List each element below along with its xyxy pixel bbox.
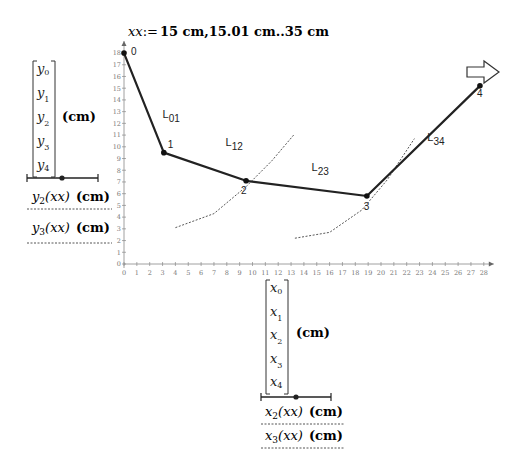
vector-entry-4: x4: [270, 374, 282, 390]
x-tick-label: 3: [160, 269, 164, 277]
x-tick-label: 26: [454, 269, 462, 277]
y-axis-arrow-icon: [122, 41, 127, 46]
link-label-12: L12: [226, 136, 244, 152]
y-tick-label: 16: [113, 73, 121, 81]
y-tick-label: 11: [113, 131, 121, 139]
x-tick-label: 7: [212, 269, 216, 277]
x-tick-label: 16: [325, 269, 333, 277]
joint-3[interactable]: [364, 193, 370, 199]
vector-entry-2: y2: [36, 109, 49, 128]
y-unit-label: (cm): [62, 109, 96, 124]
x-tick-label: 1: [135, 269, 139, 277]
vector-entry-1: x1: [270, 304, 282, 323]
x-tick-label: 18: [351, 269, 359, 277]
x-tick-label: 12: [274, 269, 282, 277]
direction-arrow-icon: [467, 61, 499, 83]
y-tick-label: 13: [113, 108, 121, 116]
vector-entry-2: x2: [270, 327, 282, 346]
y-trace-2-label[interactable]: y3(xx)(cm): [31, 220, 110, 237]
link-label-34: L34: [427, 131, 445, 147]
y-tick-label: 9: [117, 155, 121, 163]
y-tick-label: 7: [117, 178, 121, 186]
x-trace-2-label[interactable]: x3(xx)(cm): [265, 428, 343, 445]
joint-label-3: 3: [364, 201, 370, 212]
x-tick-label: 11: [261, 269, 269, 277]
x-tick-label: 5: [186, 269, 190, 277]
x-tick-label: 20: [377, 269, 385, 277]
vector-entry-4: y4: [36, 157, 49, 173]
y-tick-label: 6: [117, 190, 121, 198]
x-vector-entries: x0x1x2x3x4: [270, 280, 282, 390]
linkage-line: [124, 53, 480, 196]
vector-entry-0: x0: [270, 280, 282, 296]
joint-label-0: 0: [131, 46, 137, 57]
x-tick-label: 27: [467, 269, 475, 277]
y-tick-label: 5: [117, 202, 121, 210]
x-tick-label: 6: [199, 269, 203, 277]
x-tick-label: 0: [122, 269, 126, 277]
x-vector-right-bracket: [284, 280, 288, 394]
vector-entry-3: x3: [270, 351, 282, 370]
x-tick-label: 23: [415, 269, 423, 277]
y-axis-legend[interactable]: y0y1y2y3y4 (cm) y2(xx)(cm) y3(xx)(cm): [27, 61, 112, 243]
range-values: 15 cm,15.01 cm..35 cm: [160, 24, 329, 39]
x-tick-label: 28: [480, 269, 488, 277]
x-tick-label: 14: [300, 269, 308, 277]
x-tick-label: 22: [403, 269, 411, 277]
range-definition[interactable]: xx:=15 cm,15.01 cm..35 cm: [128, 24, 329, 39]
link-label-23: L23: [312, 161, 330, 177]
y-trace-1-label[interactable]: y2(xx)(cm): [31, 189, 110, 206]
x-tick-label: 8: [225, 269, 229, 277]
y-tick-label: 18: [113, 49, 121, 57]
joint-1[interactable]: [161, 150, 167, 156]
x-axis-legend[interactable]: x0x1x2x3x4 (cm) x2(xx)(cm) x3(xx)(cm): [261, 280, 344, 448]
joint-label-1: 1: [168, 139, 174, 150]
vector-entry-3: y3: [36, 133, 49, 152]
mathcad-plot-region: xx:=15 cm,15.01 cm..35 cm 01234567891011…: [0, 0, 522, 470]
x-trace-1-label[interactable]: x2(xx)(cm): [265, 404, 343, 421]
linkage-polyline: 01234: [121, 46, 483, 212]
x-unit-label: (cm): [296, 325, 330, 340]
y-tick-label: 0: [117, 260, 121, 268]
x-tick-label: 15: [313, 269, 321, 277]
joint-label-4: 4: [477, 88, 483, 99]
y-tick-label: 1: [117, 249, 121, 257]
x-tick-label: 13: [287, 269, 295, 277]
x-trace-handle[interactable]: [261, 393, 331, 401]
y-vector-entries: y0y1y2y3y4: [36, 61, 49, 173]
x-tick-label: 10: [248, 269, 256, 277]
x-tick-label: 4: [173, 269, 177, 277]
x-tick-label: 19: [364, 269, 372, 277]
y-tick-label: 15: [113, 85, 121, 93]
y-tick-label: 4: [117, 213, 121, 221]
joint-2[interactable]: [243, 178, 249, 184]
y-tick-label: 17: [113, 61, 121, 69]
x-tick-label: 21: [390, 269, 398, 277]
y-vector-right-bracket: [51, 61, 55, 177]
x-tick-label: 9: [238, 269, 242, 277]
joint-label-2: 2: [241, 185, 247, 196]
vector-entry-1: y1: [36, 85, 49, 104]
link-label-01: L01: [163, 108, 181, 124]
y-trace-handle[interactable]: [27, 174, 98, 182]
y-tick-label: 14: [113, 96, 121, 104]
x-tick-label: 24: [428, 269, 436, 277]
y-tick-label: 2: [117, 237, 121, 245]
y-tick-label: 3: [117, 225, 121, 233]
x-tick-label: 2: [148, 269, 152, 277]
x-tick-label: 25: [441, 269, 449, 277]
y-tick-label: 10: [113, 143, 121, 151]
plot-axes: 0123456789101112131415161718192021222324…: [113, 41, 494, 277]
assign-operator: :=: [143, 24, 158, 39]
y-tick-label: 12: [113, 120, 121, 128]
joint-0[interactable]: [121, 50, 127, 56]
x-tick-label: 17: [338, 269, 346, 277]
vector-entry-0: y0: [36, 61, 49, 77]
x-axis-arrow-icon: [489, 262, 494, 267]
y-tick-label: 8: [117, 167, 121, 175]
range-variable: xx: [128, 24, 143, 39]
